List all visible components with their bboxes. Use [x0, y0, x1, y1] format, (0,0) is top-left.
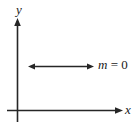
line-right-arrowhead-icon [87, 64, 94, 70]
x-axis-label: x [125, 103, 131, 116]
slope-variable: m [98, 57, 107, 72]
y-axis-arrowhead-icon [14, 18, 21, 26]
x-axis-arrowhead-icon [115, 107, 123, 114]
slope-operator: = [107, 57, 121, 72]
slope-value: 0 [121, 57, 128, 72]
y-axis-label: y [16, 3, 22, 16]
slope-zero-diagram: y x m = 0 [0, 0, 140, 127]
line-left-arrowhead-icon [28, 64, 35, 70]
slope-annotation: m = 0 [98, 58, 128, 71]
